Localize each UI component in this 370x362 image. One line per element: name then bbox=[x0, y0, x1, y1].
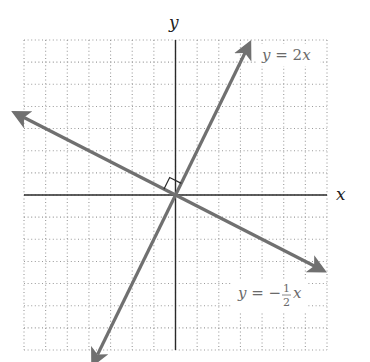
line1-equation-label: y = 2x bbox=[261, 46, 311, 64]
line2-equation-label: y = − bbox=[237, 284, 281, 302]
line2-fraction-denominator: 2 bbox=[283, 296, 290, 309]
line2-fraction-numerator: 1 bbox=[283, 282, 290, 295]
line1-eq: = 2 bbox=[270, 46, 302, 64]
line1-x: x bbox=[302, 46, 311, 64]
x-axis-label: x bbox=[336, 184, 346, 204]
line2-x: x bbox=[293, 284, 302, 302]
line-series-2 bbox=[24, 118, 323, 271]
line2-eq: = − bbox=[246, 284, 281, 302]
coordinate-plane: y x y = 2x y = − 1 2 x bbox=[0, 0, 370, 362]
line-series-1 bbox=[98, 44, 250, 354]
y-axis-label: y bbox=[168, 12, 179, 32]
